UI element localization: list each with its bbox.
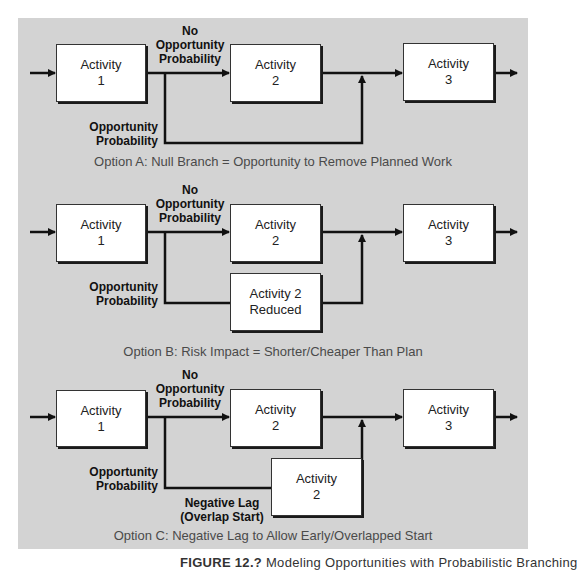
option-b-opportunity-label: Opportunity Probability (80, 280, 158, 308)
box-line-2: 2 (313, 487, 320, 503)
option-a-activity-2-box: Activity 2 (230, 44, 321, 102)
figure-caption: FIGURE 12.? Modeling Opportunities with … (180, 555, 578, 570)
option-a-activity-3-box: Activity 3 (403, 43, 494, 101)
box-line-2: 2 (272, 73, 279, 89)
label-line: (Overlap Start) (172, 510, 272, 524)
label-line: Opportunity (150, 382, 230, 396)
box-line-1: Activity 2 (249, 286, 301, 302)
box-line-2: 2 (272, 418, 279, 434)
box-line-1: Activity (428, 217, 469, 233)
label-line: Opportunity (80, 120, 158, 134)
option-c-negative-lag-label: Negative Lag (Overlap Start) (172, 496, 272, 524)
option-c-no-opportunity-label: No Opportunity Probability (150, 368, 230, 410)
option-c-activity-3-box: Activity 3 (403, 389, 494, 447)
option-a-no-opportunity-label: No Opportunity Probability (150, 24, 230, 66)
label-line: Negative Lag (172, 496, 272, 510)
option-a-opportunity-label: Opportunity Probability (80, 120, 158, 148)
option-a-activity-1-box: Activity 1 (56, 44, 146, 102)
option-b-branch-in (165, 232, 230, 303)
option-a-caption: Option A: Null Branch = Opportunity to R… (18, 154, 528, 169)
label-line: Probability (150, 52, 230, 66)
option-c-opportunity-label: Opportunity Probability (80, 465, 158, 493)
option-c-activity-2-overlap-box: Activity 2 (271, 458, 362, 516)
box-line-2: 1 (97, 233, 104, 249)
label-line: Probability (80, 479, 158, 493)
figure-number: FIGURE 12.? (180, 555, 262, 570)
box-line-2: 1 (97, 419, 104, 435)
box-line-1: Activity (296, 471, 337, 487)
box-line-2: 1 (97, 73, 104, 89)
box-line-2: 3 (445, 72, 452, 88)
label-line: Opportunity (150, 197, 230, 211)
option-b-no-opportunity-label: No Opportunity Probability (150, 183, 230, 225)
option-b-activity-3-box: Activity 3 (403, 204, 494, 262)
label-line: No (150, 183, 230, 197)
option-b-activity-2-reduced-box: Activity 2 Reduced (230, 273, 321, 331)
label-line: Probability (150, 396, 230, 410)
box-line-1: Activity (255, 217, 296, 233)
figure-title: Modeling Opportunities with Probabilisti… (266, 555, 578, 570)
option-c-caption: Option C: Negative Lag to Allow Early/Ov… (18, 528, 528, 543)
label-line: Probability (80, 134, 158, 148)
box-line-2: 3 (445, 418, 452, 434)
box-line-2: 3 (445, 233, 452, 249)
option-c-activity-1-box: Activity 1 (56, 390, 146, 447)
box-line-1: Activity (80, 57, 121, 73)
option-b-branch-out (321, 235, 362, 303)
box-line-2: 2 (272, 233, 279, 249)
box-line-1: Activity (80, 403, 121, 419)
box-line-1: Activity (428, 402, 469, 418)
label-line: Opportunity (80, 280, 158, 294)
label-line: No (150, 368, 230, 382)
label-line: Probability (150, 211, 230, 225)
box-line-2: Reduced (249, 302, 301, 318)
box-line-1: Activity (255, 402, 296, 418)
label-line: Opportunity (80, 465, 158, 479)
box-line-1: Activity (80, 217, 121, 233)
option-c-activity-2-box: Activity 2 (230, 389, 321, 447)
box-line-1: Activity (255, 57, 296, 73)
option-b-caption: Option B: Risk Impact = Shorter/Cheaper … (18, 344, 528, 359)
box-line-1: Activity (428, 56, 469, 72)
label-line: No (150, 24, 230, 38)
option-b-activity-2-box: Activity 2 (230, 204, 321, 262)
option-b-activity-1-box: Activity 1 (56, 204, 146, 262)
label-line: Opportunity (150, 38, 230, 52)
label-line: Probability (80, 294, 158, 308)
